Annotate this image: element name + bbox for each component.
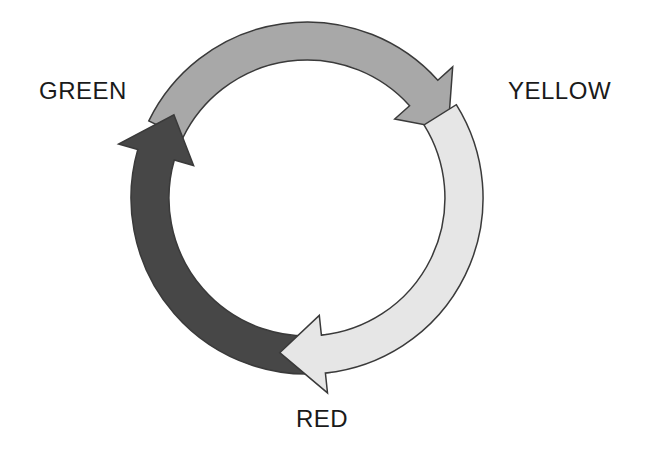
arrow-green-to-yellow <box>149 22 453 138</box>
label-red: RED <box>296 407 348 431</box>
cycle-diagram <box>0 0 662 457</box>
label-green: GREEN <box>39 79 127 103</box>
label-yellow: YELLOW <box>508 79 611 103</box>
arrow-yellow-to-red <box>280 105 483 393</box>
